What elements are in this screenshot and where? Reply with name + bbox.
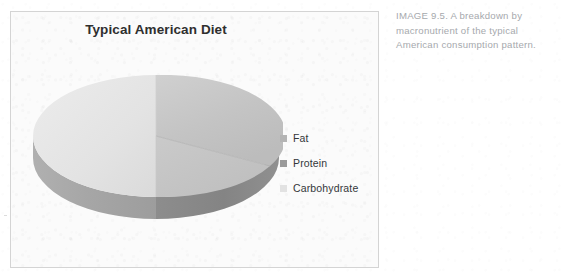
legend-item-protein[interactable]: Protein <box>280 152 379 174</box>
legend-swatch-icon-carbohydrate <box>280 185 287 192</box>
pie-chart-figure: Typical American Diet <box>10 11 379 268</box>
caption-line-1: IMAGE 9.5. A breakdown by <box>396 9 564 24</box>
legend-item-fat[interactable]: Fat <box>280 127 379 149</box>
legend-swatch-icon-fat <box>280 135 287 142</box>
chart-title: Typical American Diet <box>11 22 301 37</box>
legend-label-fat: Fat <box>293 132 309 144</box>
caption-line-2: macronutrient of the typical <box>396 24 564 39</box>
caption-line-3: American consumption pattern. <box>396 38 564 53</box>
pie-chart-graphic <box>29 75 283 227</box>
figure-caption: IMAGE 9.5. A breakdown by macronutrient … <box>396 9 564 53</box>
pie-chart-svg <box>29 75 283 227</box>
legend-item-carbohydrate[interactable]: Carbohydrate <box>280 177 379 199</box>
chart-legend: Fat Protein Carbohydrate <box>280 127 379 202</box>
scan-speck <box>4 215 7 216</box>
legend-label-protein: Protein <box>293 157 327 169</box>
page-background: Typical American Diet <box>0 0 567 280</box>
legend-swatch-icon-protein <box>280 160 287 167</box>
legend-label-carbohydrate: Carbohydrate <box>293 182 358 194</box>
